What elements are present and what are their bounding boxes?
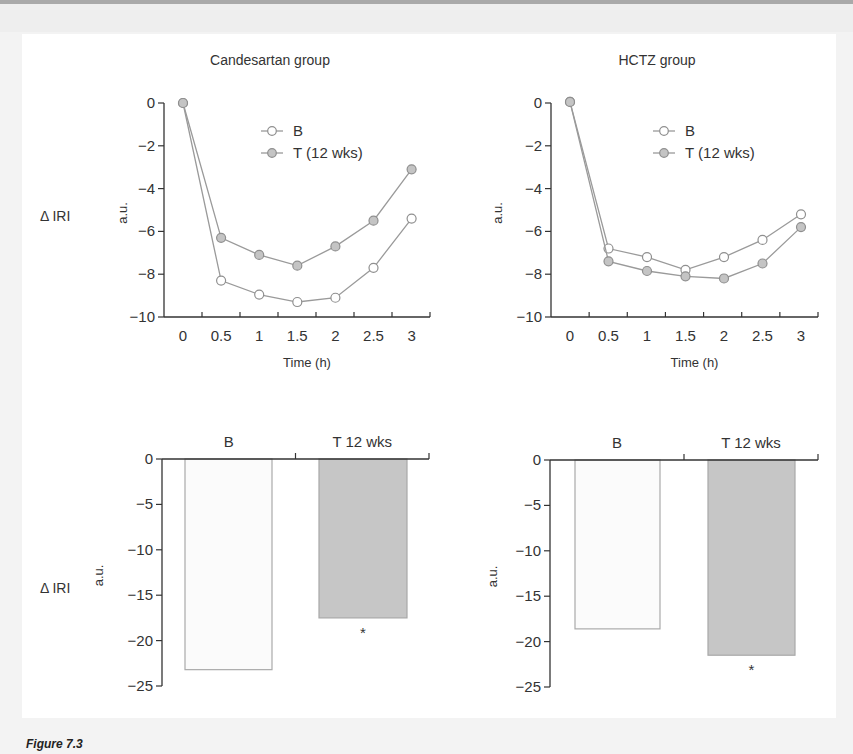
y-tick-label: −15 (516, 587, 541, 604)
x-tick-label: 2 (720, 327, 728, 344)
candesartan-bar-chart: *BT 12 wks0−5−10−15−20−25a.u. (91, 433, 429, 694)
y-tick-label: −10 (130, 308, 155, 325)
y-tick-label: 0 (145, 450, 153, 467)
y-tick-label: 0 (534, 94, 542, 111)
y-tick-label: −2 (138, 137, 155, 154)
y-tick-label: −8 (525, 265, 542, 282)
x-tick-label: 1 (255, 327, 263, 344)
data-point-t (407, 165, 416, 174)
y-tick-label: 0 (147, 94, 155, 111)
category-label: B (612, 434, 622, 451)
x-tick-label: 2 (331, 327, 339, 344)
data-point-b (293, 298, 302, 307)
x-tick-label: 0 (566, 327, 574, 344)
x-axis-label: Time (h) (671, 355, 719, 370)
data-point-t (255, 250, 264, 259)
y-tick-label: −5 (524, 496, 541, 513)
y-tick-label: −2 (525, 137, 542, 154)
data-point-t (293, 261, 302, 270)
x-tick-label: 1.5 (675, 327, 696, 344)
data-point-b (407, 214, 416, 223)
y-axis-label: a.u. (485, 566, 500, 588)
data-point-b (643, 253, 652, 262)
x-tick-label: 3 (407, 327, 415, 344)
hctz-bar-chart: *BT 12 wks0−5−10−15−20−25a.u. (485, 434, 818, 695)
y-tick-label: −6 (525, 222, 542, 239)
y-tick-label: −6 (138, 222, 155, 239)
data-point-b (331, 293, 340, 302)
y-tick-label: −10 (128, 541, 153, 558)
data-point-b (758, 235, 767, 244)
figure-caption: Figure 7.3 (26, 737, 83, 751)
data-point-t (720, 274, 729, 283)
data-point-t (758, 259, 767, 268)
y-tick-label: −20 (128, 632, 153, 649)
y-tick-label: −8 (138, 265, 155, 282)
data-point-t (797, 223, 806, 232)
data-point-b (720, 253, 729, 262)
x-tick-label: 1.5 (287, 327, 308, 344)
chart-title: Candesartan group (210, 52, 330, 68)
data-point-b (797, 210, 806, 219)
x-tick-label: 2.5 (363, 327, 384, 344)
x-axis-label: Time (h) (283, 355, 331, 370)
candesartan-line-chart: Candesartan group0−2−4−6−8−1000.511.522.… (115, 52, 430, 370)
x-tick-label: 1 (643, 327, 651, 344)
y-tick-label: −10 (517, 308, 542, 325)
legend-marker-b (268, 127, 277, 136)
y-axis-label: a.u. (115, 202, 130, 224)
y-tick-label: −20 (516, 633, 541, 650)
y-tick-label: 0 (533, 451, 541, 468)
y-tick-label: −5 (136, 495, 153, 512)
y-axis-label: a.u. (91, 565, 106, 587)
x-tick-label: 0 (179, 327, 187, 344)
data-point-t (217, 233, 226, 242)
data-point-b (255, 290, 264, 299)
data-point-b (369, 263, 378, 272)
chart-title: HCTZ group (618, 52, 695, 68)
legend-label: T (12 wks) (685, 144, 755, 161)
hctz-line-chart: HCTZ group0−2−4−6−8−1000.511.522.53Time … (490, 52, 818, 370)
y-tick-label: −25 (516, 678, 541, 695)
y-tick-label: −4 (525, 180, 542, 197)
category-label: B (224, 433, 234, 450)
category-label: T 12 wks (721, 434, 781, 451)
x-tick-label: 3 (797, 327, 805, 344)
bar-b (575, 460, 660, 629)
data-point-t (331, 242, 340, 251)
data-point-t (369, 216, 378, 225)
y-tick-label: −10 (516, 542, 541, 559)
y-tick-label: −4 (138, 180, 155, 197)
data-point-t (566, 97, 575, 106)
data-point-t (179, 99, 188, 108)
legend-label: B (685, 122, 695, 139)
data-point-b (217, 276, 226, 285)
y-tick-label: −15 (128, 586, 153, 603)
x-tick-label: 0.5 (211, 327, 232, 344)
bar-t (319, 459, 407, 618)
significance-asterisk: * (749, 661, 755, 678)
y-tick-label: −25 (128, 677, 153, 694)
category-label: T 12 wks (332, 433, 392, 450)
x-tick-label: 2.5 (752, 327, 773, 344)
legend-marker-t (268, 149, 277, 158)
bar-t (708, 460, 795, 655)
row-label-bottom: Δ IRI (40, 580, 70, 596)
data-point-t (681, 272, 690, 281)
data-point-t (643, 266, 652, 275)
data-point-t (604, 257, 613, 266)
bar-b (185, 459, 272, 670)
figure-svg: Δ IRI Δ IRI Candesartan group0−2−4−6−8−1… (0, 0, 853, 754)
row-label-top: Δ IRI (40, 208, 70, 224)
legend-marker-b (660, 127, 669, 136)
legend-marker-t (660, 149, 669, 158)
significance-asterisk: * (360, 624, 366, 641)
y-axis-label: a.u. (490, 202, 505, 224)
x-tick-label: 0.5 (598, 327, 619, 344)
legend-label: B (293, 122, 303, 139)
legend-label: T (12 wks) (293, 144, 363, 161)
